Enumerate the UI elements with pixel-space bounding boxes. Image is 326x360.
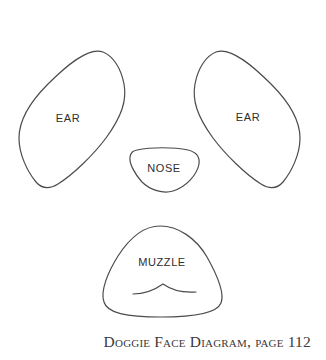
nose-label: NOSE [147,162,181,174]
diagram-canvas: EAR EAR NOSE MUZZLE [0,0,326,330]
right-ear-label: EAR [236,111,260,123]
muzzle-label: MUZZLE [138,256,186,268]
muzzle-shape [103,226,222,317]
doggie-face-diagram: EAR EAR NOSE MUZZLE Doggie Face Diagram,… [0,0,326,360]
diagram-caption: Doggie Face Diagram, page 112 [104,333,311,351]
left-ear-label: EAR [56,112,80,124]
mouth-line [133,284,196,294]
